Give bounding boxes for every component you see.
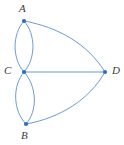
edge-A-C-left (15, 21, 24, 72)
graph-diagram-figure: A C B D (0, 0, 124, 145)
edge-C-B-left (16, 72, 26, 124)
edge-A-C-right (24, 21, 33, 72)
vertex-B (24, 122, 28, 126)
vertex-D (103, 70, 107, 74)
vertex-label-a: A (19, 3, 26, 14)
edge-A-D (24, 21, 105, 72)
vertex-A (22, 19, 26, 23)
vertex-C (22, 70, 26, 74)
vertex-label-d: D (112, 65, 120, 76)
edge-B-D (26, 72, 105, 124)
graph-canvas (0, 0, 124, 145)
vertex-label-b: B (21, 130, 28, 141)
edge-C-B-right (24, 72, 34, 124)
vertex-label-c: C (4, 65, 11, 76)
edge-layer (15, 21, 105, 124)
